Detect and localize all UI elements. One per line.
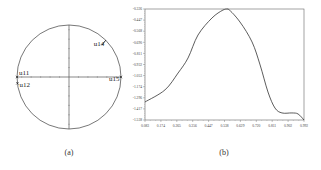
x-tick-label: 0.720 (252, 124, 260, 128)
x-tick-label: 0.447 (205, 124, 213, 128)
x-tick-label: 0.811 (268, 124, 276, 128)
x-tick-label: 0.083 (141, 124, 149, 128)
figure: u11u12u14u15 (a) -0.326-0.447-0.568-0.69… (0, 0, 321, 170)
y-tick-label: -0.568 (133, 29, 142, 33)
caption-b: (b) (219, 148, 229, 157)
y-tick-label: -0.932 (133, 63, 142, 67)
y-tick-label: -0.447 (133, 18, 142, 22)
y-tick-label: -0.326 (133, 7, 142, 11)
y-tick-label: -1.417 (133, 107, 142, 111)
point-u14: u14 (94, 40, 106, 48)
y-tick-label: -1.174 (133, 85, 142, 89)
x-tick-label: 0.992 (300, 124, 308, 128)
x-tick-label: 0.902 (284, 124, 292, 128)
subplot-a: u11u12u14u15 (a) (16, 25, 122, 157)
subplot-b: -0.326-0.447-0.568-0.690-0.811-0.932-1.0… (133, 7, 309, 157)
data-curve (145, 9, 304, 120)
x-axis-ticks: 0.0830.1740.2650.3560.4470.5380.6290.720… (141, 120, 308, 128)
x-tick-label: 0.538 (220, 124, 228, 128)
caption-a: (a) (65, 148, 74, 157)
y-tick-label: -1.538 (133, 118, 142, 122)
y-tick-label: -1.053 (133, 74, 142, 78)
point-label: u11 (19, 69, 30, 77)
x-tick-label: 0.174 (157, 124, 165, 128)
y-axis-ticks: -0.326-0.447-0.568-0.690-0.811-0.932-1.0… (133, 7, 145, 122)
point-label: u12 (19, 81, 30, 89)
x-tick-label: 0.265 (173, 124, 181, 128)
plot-frame (145, 9, 304, 120)
y-tick-label: -0.690 (133, 41, 142, 45)
y-tick-label: -1.296 (133, 96, 142, 100)
point-u15: u15 (109, 75, 122, 83)
point-label: u15 (109, 75, 120, 83)
y-tick-label: -0.811 (133, 52, 142, 56)
point-label: u14 (94, 40, 105, 48)
x-tick-label: 0.629 (236, 124, 244, 128)
x-tick-label: 0.356 (189, 124, 197, 128)
